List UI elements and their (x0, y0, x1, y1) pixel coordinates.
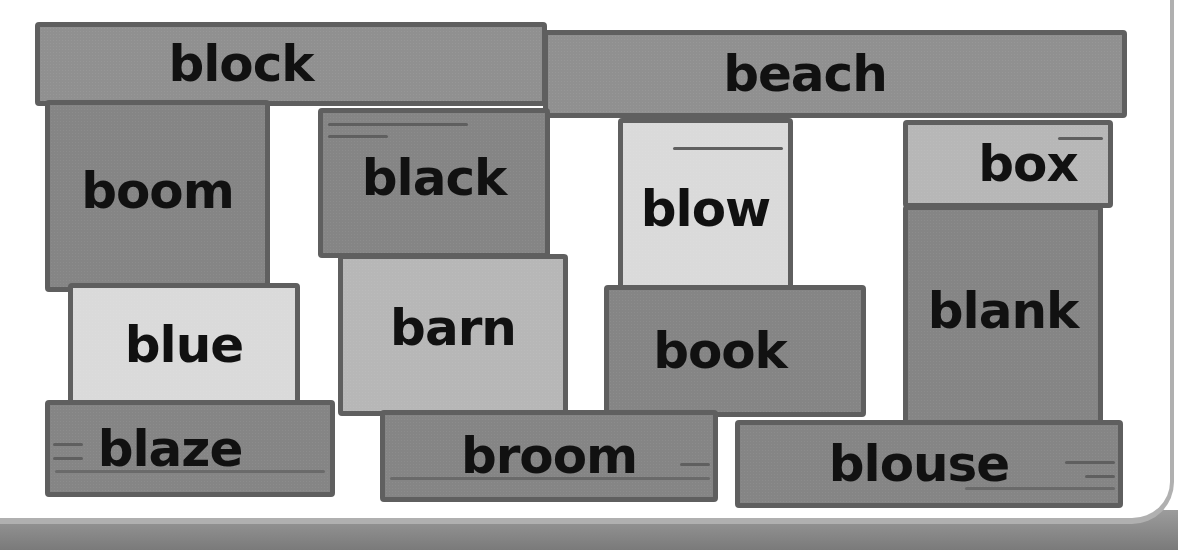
grain-line (673, 147, 783, 150)
brick-broom: broom (380, 410, 718, 502)
brick-word: blaze (98, 420, 243, 478)
grain-line (1085, 475, 1115, 478)
brick-word: blouse (829, 435, 1010, 493)
grain-line (680, 463, 710, 466)
grain-line (53, 443, 83, 446)
brick-word: blank (928, 282, 1079, 340)
brick-blank: blank (903, 205, 1103, 427)
brick-word: book (653, 322, 787, 380)
grain-line (1065, 461, 1115, 464)
brick-word: broom (461, 427, 637, 485)
brick-word: box (978, 135, 1077, 193)
brick-word: boom (81, 162, 234, 220)
brick-blaze: blaze (45, 400, 335, 497)
grain-line (328, 123, 468, 126)
brick-blue: blue (68, 283, 300, 407)
brick-word: black (362, 149, 507, 207)
grain-line (53, 457, 83, 460)
brick-boom: boom (45, 100, 270, 292)
brick-barn: barn (338, 254, 568, 416)
brick-blouse: blouse (735, 420, 1123, 508)
brick-block: block (35, 22, 547, 106)
brick-book: book (604, 285, 866, 417)
grain-line (328, 135, 388, 138)
brick-word: blow (641, 180, 770, 238)
brick-beach: beach (543, 30, 1127, 118)
brick-box: box (903, 120, 1113, 208)
brick-word: block (168, 35, 313, 93)
brick-black: black (318, 108, 550, 258)
brick-word: blue (125, 316, 243, 374)
brick-blow: blow (618, 118, 793, 290)
brick-word: barn (390, 299, 516, 357)
brick-word: beach (723, 45, 887, 103)
